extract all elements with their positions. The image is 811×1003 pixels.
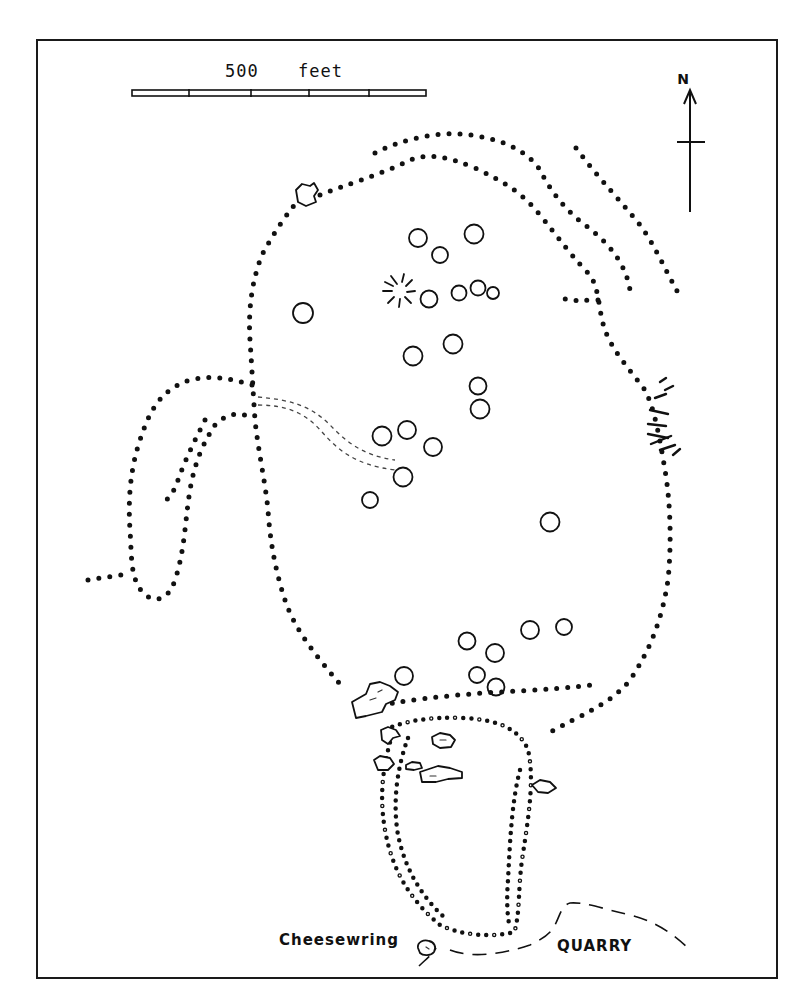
- cheesewring-label: Cheesewring: [279, 931, 399, 949]
- scale-bar: 500 feet: [132, 61, 426, 97]
- hut-circle: [521, 621, 539, 639]
- quarry-edge: [419, 903, 690, 966]
- scale-unit: feet: [298, 61, 343, 81]
- hut-circle: [486, 644, 504, 662]
- hut-circle: [293, 303, 313, 323]
- hut-circle: [452, 286, 467, 301]
- scale-value: 500: [225, 61, 259, 81]
- hut-circle: [471, 281, 486, 296]
- hut-circle: [409, 229, 427, 247]
- hut-circle: [487, 287, 499, 299]
- hut-circle: [488, 679, 505, 696]
- hut-circles: [293, 225, 572, 696]
- rock-outcrops: [296, 183, 556, 955]
- rock-ring-3: [406, 762, 422, 770]
- hut-circle: [465, 225, 484, 244]
- hut-circle: [395, 667, 413, 685]
- hut-circle: [471, 400, 490, 419]
- west-outwork: [88, 378, 252, 600]
- hut-circle: [469, 667, 485, 683]
- hut-circle: [424, 438, 442, 456]
- hut-circle: [404, 347, 423, 366]
- scale-bar-rect: [132, 90, 426, 96]
- north-label: N: [677, 71, 689, 87]
- hut-circle: [541, 513, 560, 532]
- rock-ring-east: [532, 780, 556, 793]
- rock-nw: [296, 183, 318, 206]
- rock-sw-large: [352, 682, 398, 718]
- rock-ring-4: [420, 766, 462, 782]
- east-entrance-marks: [648, 378, 680, 455]
- cairn-star-icon: [383, 274, 415, 307]
- site-plan-map: 500 feet N: [0, 0, 811, 1003]
- quarry-label: QUARRY: [557, 937, 632, 955]
- hut-circle: [394, 468, 413, 487]
- main-enclosure-wall: [250, 156, 671, 735]
- hut-circle: [432, 247, 448, 263]
- hut-circle: [459, 633, 476, 650]
- hut-circle: [398, 421, 416, 439]
- outer-ramparts: [375, 134, 682, 300]
- north-arrow-icon: N: [677, 71, 705, 212]
- hut-circle: [444, 335, 463, 354]
- trackway: [258, 397, 395, 470]
- hut-circle: [373, 427, 392, 446]
- hut-circle: [362, 492, 378, 508]
- rock-ring-nw: [381, 727, 400, 744]
- hut-circle: [421, 291, 438, 308]
- rock-ring-2: [374, 756, 394, 770]
- hut-circle: [470, 378, 487, 395]
- tor-enclosure-wall: [382, 718, 531, 935]
- hut-circle: [556, 619, 572, 635]
